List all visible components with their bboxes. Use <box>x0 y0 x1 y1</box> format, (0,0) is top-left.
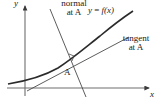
math-figure-tangent-normal: y x normal at A y = f(x) tangent at A A <box>0 0 161 109</box>
normal-line <box>50 9 86 97</box>
function-label-arg: (x) <box>104 5 114 15</box>
function-label: y = f(x) <box>88 6 114 15</box>
tangent-label: tangent at A <box>113 34 159 53</box>
point-a-label: A <box>64 68 71 77</box>
function-label-eq: = <box>92 5 102 15</box>
y-axis-label: y <box>14 0 18 8</box>
tangent-label-line2: at A <box>113 43 159 52</box>
x-axis-label: x <box>150 90 154 99</box>
